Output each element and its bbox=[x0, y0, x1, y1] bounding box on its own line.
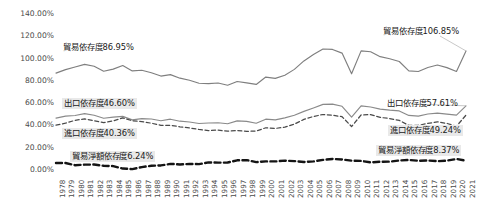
x-axis-tick-label: 1987 bbox=[145, 180, 152, 198]
x-axis-tick-label: 1984 bbox=[116, 180, 123, 198]
x-axis-tick-label: 2008 bbox=[345, 180, 352, 198]
x-axis-tick-label: 2006 bbox=[326, 180, 333, 198]
x-axis-tick-label: 1982 bbox=[97, 180, 104, 198]
import-dependence-start-annotation: 進口依存度40.36% bbox=[62, 128, 137, 139]
x-axis-tick-label: 1994 bbox=[211, 180, 218, 198]
x-axis-tick-label: 2009 bbox=[354, 180, 361, 198]
x-axis-tick-label: 1981 bbox=[87, 180, 94, 198]
x-axis-tick-label: 2016 bbox=[421, 180, 428, 198]
x-axis-tick-label: 1985 bbox=[125, 180, 132, 198]
x-axis-tick-label: 1980 bbox=[78, 180, 85, 198]
x-axis-tick-label: 2001 bbox=[278, 180, 285, 198]
export-dependence-start-annotation: 出口依存度46.60% bbox=[62, 98, 137, 109]
x-axis-tick-label: 2020 bbox=[459, 180, 466, 198]
x-axis-tick-label: 1998 bbox=[249, 180, 256, 198]
x-axis-tick-label: 1988 bbox=[154, 180, 161, 198]
x-axis-tick-label: 1996 bbox=[230, 180, 237, 198]
x-axis-tick-label: 2007 bbox=[335, 180, 342, 198]
net-trade-dependence-start-annotation: 貿易淨額依存度6.24% bbox=[70, 151, 155, 162]
x-axis-tick-label: 1978 bbox=[59, 180, 66, 198]
x-axis-tick-label: 1997 bbox=[240, 180, 247, 198]
x-axis-tick-label: 2011 bbox=[373, 180, 380, 198]
x-axis-tick-label: 2021 bbox=[469, 180, 476, 198]
x-axis-tick-label: 1979 bbox=[68, 180, 75, 198]
x-axis-tick-label: 2005 bbox=[316, 180, 323, 198]
x-axis-tick-label: 1999 bbox=[259, 180, 266, 198]
x-axis-tick-label: 2002 bbox=[288, 180, 295, 198]
x-axis-tick-label: 2000 bbox=[268, 180, 275, 198]
x-axis-tick-label: 2004 bbox=[307, 180, 314, 198]
x-axis-tick-label: 1993 bbox=[202, 180, 209, 198]
x-axis-tick-label: 2013 bbox=[392, 180, 399, 198]
x-axis-tick-label: 1989 bbox=[164, 180, 171, 198]
x-axis-tick-label: 1995 bbox=[221, 180, 228, 198]
x-axis-tick-label: 2012 bbox=[383, 180, 390, 198]
x-axis-tick-label: 2014 bbox=[402, 180, 409, 198]
x-axis-tick-label: 2015 bbox=[411, 180, 418, 198]
x-axis-tick-label: 1986 bbox=[135, 180, 142, 198]
x-axis-tick-label: 2003 bbox=[297, 180, 304, 198]
trade-dependence-end-annotation: 貿易依存度106.85% bbox=[381, 26, 461, 37]
net-trade-dependence-end-annotation: 貿易淨額依存度8.37% bbox=[376, 145, 461, 156]
x-axis-tick-label: 2019 bbox=[450, 180, 457, 198]
x-axis-tick-label: 1991 bbox=[183, 180, 190, 198]
export-dependence-end-annotation: 出口依存度57.61% bbox=[385, 98, 460, 109]
x-axis-tick-label: 1992 bbox=[192, 180, 199, 198]
trade-dependence-start-annotation: 貿易依存度86.95% bbox=[61, 42, 136, 53]
x-axis-tick-label: 2017 bbox=[431, 180, 438, 198]
x-axis-tick-label: 2010 bbox=[364, 180, 371, 198]
x-axis-tick-label: 1983 bbox=[106, 180, 113, 198]
x-axis-tick-label: 2018 bbox=[440, 180, 447, 198]
x-axis-tick-label: 1990 bbox=[173, 180, 180, 198]
import-dependence-end-annotation: 進口依存度49.24% bbox=[388, 125, 463, 136]
